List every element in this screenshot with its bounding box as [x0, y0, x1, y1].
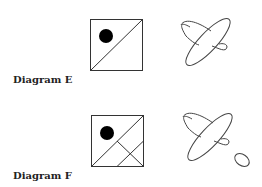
- diagram-e-label: Diagram E: [13, 74, 72, 85]
- diagram-f-square: [92, 116, 144, 167]
- diagram-f-dot: [100, 126, 114, 140]
- diagram-f-label: Diagram F: [13, 170, 72, 181]
- diagram-e-ellipses: [180, 13, 235, 71]
- diagram-canvas: [0, 0, 262, 187]
- diagram-f-ellipses: [182, 108, 251, 169]
- diagram-e-dot: [99, 29, 113, 43]
- diagram-e-square: [91, 20, 143, 71]
